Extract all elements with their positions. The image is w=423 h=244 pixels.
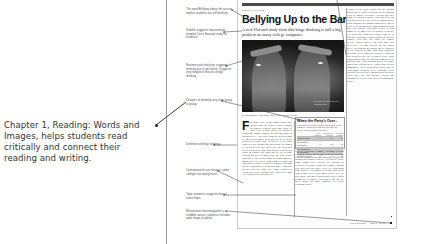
annotation-text: The word Bellying above the picture impl… bbox=[186, 7, 232, 15]
table-cell: Fell behind in schoolwork bbox=[297, 141, 313, 148]
article-subtitle: A new Harvard study finds that binge dri… bbox=[242, 28, 344, 37]
photo-caption: Bottoms up: students at a campus party bbox=[314, 100, 340, 106]
column-divider bbox=[346, 8, 347, 216]
annotation-topic-sentence: Topic sentence suggests there's some hop… bbox=[186, 193, 234, 200]
table-cell: 46 bbox=[333, 141, 343, 148]
body-text: rates of occasional drinkers, often by t… bbox=[295, 150, 344, 185]
annotation-dangers: Dangers of drinking vary from group to g… bbox=[186, 99, 234, 106]
chapter-callout: Chapter 1, Reading: Words and Images, he… bbox=[4, 120, 154, 164]
callout-bullet-icon bbox=[155, 124, 158, 127]
section-kicker: EDUCATION bbox=[242, 9, 265, 12]
callout-text: Chapter 1, Reading: Words and Images, he… bbox=[4, 120, 139, 163]
table-header: Non-bingers bbox=[313, 132, 321, 137]
body-column-1: For many years, college administrators h… bbox=[242, 121, 292, 217]
body-text: or many years, college administrators ha… bbox=[242, 121, 292, 175]
header-bar bbox=[242, 3, 394, 6]
photo-highlight bbox=[256, 64, 261, 66]
annotation-text: Subtitle suggests improvement needed. Us… bbox=[186, 28, 227, 39]
article-headline: Bellying Up to the Bar bbox=[242, 13, 346, 25]
sidebar-intro: Percentage of college students who drink… bbox=[297, 124, 343, 132]
sidebar-title: When the Party's Over... bbox=[297, 119, 343, 123]
sidebar-table-box: When the Party's Over... Percentage of c… bbox=[295, 117, 345, 149]
table-cell: 6 bbox=[313, 141, 321, 148]
photo-figure-left bbox=[252, 48, 286, 112]
page-margin-rule bbox=[166, 0, 167, 244]
annotation-text: Mainstream newsmagazine a credible sourc… bbox=[186, 209, 230, 220]
annotation-text: Dangers of drinking vary from group to g… bbox=[186, 98, 232, 106]
magazine-page: EDUCATION Bellying Up to the Bar A new H… bbox=[237, 0, 397, 229]
page-footer: NEWSWEEK · SEPT. 2002 bbox=[350, 222, 386, 224]
body-text: Leaders of the study caution that the fi… bbox=[347, 8, 394, 82]
annotation-bellying: The word Bellying above the picture impl… bbox=[186, 8, 234, 15]
annotation-text: Definition of binge drinking. bbox=[186, 142, 221, 146]
article-photo: Bottoms up: students at a campus party bbox=[242, 40, 344, 112]
column-divider bbox=[294, 121, 295, 217]
annotation-definition: Definition of binge drinking. bbox=[186, 143, 234, 147]
drop-cap: F bbox=[242, 121, 249, 131]
annotation-photo: Extreme and shocking; suggests drinking … bbox=[186, 64, 234, 78]
table-row: Fell behind in schoolwork 6 21 46 bbox=[297, 141, 343, 148]
footer-square-icon bbox=[390, 222, 393, 225]
body-column-3: Leaders of the study caution that the fi… bbox=[347, 8, 394, 216]
annotation-source: Mainstream newsmagazine a credible sourc… bbox=[186, 210, 234, 221]
article-byline: BY ELIZABETH MEHREN AND LAURA FITZPATRIC… bbox=[242, 114, 297, 116]
annotation-consequences: Consequences are serious; some colleges … bbox=[186, 169, 234, 176]
body-column-2: rates of occasional drinkers, often by t… bbox=[295, 150, 344, 217]
annotation-text: Extreme and shocking; suggests drinking … bbox=[186, 63, 231, 78]
end-mark-icon bbox=[391, 216, 393, 218]
photo-highlight bbox=[318, 62, 323, 64]
table-cell: 21 bbox=[321, 141, 333, 148]
annotation-text: Topic sentence suggests there's some hop… bbox=[186, 192, 227, 200]
annotation-text: Consequences are serious; some colleges … bbox=[186, 168, 229, 176]
annotation-subtitle: Subtitle suggests improvement needed. Us… bbox=[186, 29, 234, 40]
